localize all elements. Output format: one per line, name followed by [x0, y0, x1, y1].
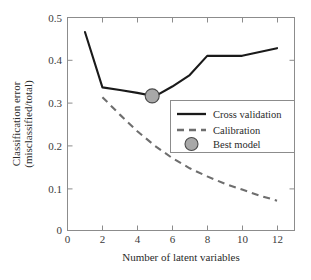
chart-figure: 0 2 4 6 8 10 12 0 0.1 0.2 0.3 0.4 0.5 Nu… [0, 0, 311, 280]
x-tick-label: 2 [100, 233, 106, 245]
legend-label-best-model: Best model [213, 139, 261, 150]
y-tick-label: 0 [57, 224, 63, 236]
x-tick-label: 6 [170, 233, 176, 245]
best-model-marker[interactable] [145, 89, 159, 103]
x-tick-label: 10 [237, 233, 249, 245]
y-tick-label: 0.1 [48, 183, 62, 195]
x-axis-title: Number of latent variables [122, 251, 240, 263]
x-tick-label: 8 [205, 233, 211, 245]
legend-label-calibration: Calibration [213, 125, 261, 136]
chart-legend: Cross validation Calibration Best model [171, 101, 295, 153]
classification-error-line-chart: 0 2 4 6 8 10 12 0 0.1 0.2 0.3 0.4 0.5 Nu… [0, 0, 311, 280]
y-tick-label: 0.5 [48, 12, 62, 24]
y-axis-title-line2: (misclassified/total) [22, 80, 35, 168]
legend-swatch-best-model [185, 138, 198, 151]
y-tick-label: 0.3 [48, 97, 62, 109]
x-tick-label: 0 [65, 233, 71, 245]
y-tick-label: 0.4 [48, 54, 62, 66]
x-tick-label: 4 [135, 233, 141, 245]
y-tick-label: 0.2 [48, 140, 62, 152]
legend-label-cross-validation: Cross validation [213, 109, 282, 120]
x-tick-label: 12 [272, 233, 283, 245]
y-axis-title-line1: Classification error [10, 81, 22, 166]
